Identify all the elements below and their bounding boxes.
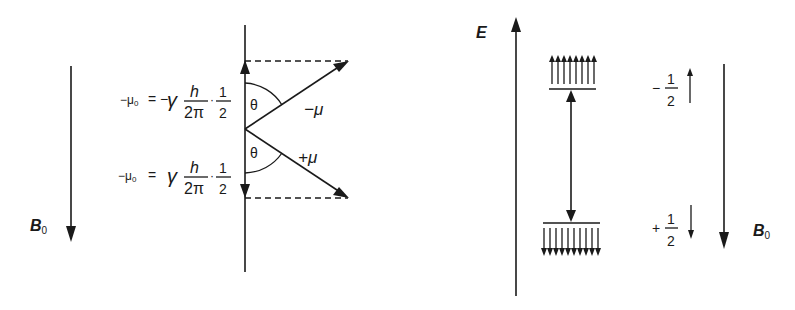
svg-text:1: 1 — [667, 211, 675, 227]
svg-text:1: 1 — [667, 71, 675, 87]
equation-lower: −μ0 = γ h 2π · 1 2 — [118, 159, 231, 197]
theta-label-upper: θ — [250, 97, 258, 113]
b0-field-arrow-left — [66, 66, 76, 242]
svg-text:γ: γ — [167, 89, 178, 111]
spin-down-indicator-arrow — [688, 205, 694, 239]
svg-text:1: 1 — [219, 160, 227, 176]
spin-down-arrows — [541, 228, 601, 256]
energy-label: E — [476, 24, 488, 41]
spin-label-upper: − 1 2 — [652, 71, 678, 109]
svg-text:·: · — [210, 169, 214, 183]
svg-text:=: = — [148, 167, 156, 183]
right-panel: E — [476, 17, 771, 296]
svg-text:−μ0: −μ0 — [120, 93, 139, 108]
nmr-spin-diagram: B0 θ θ −μ +μ −μ0 = − γ — [0, 0, 795, 310]
z-component-up-arrowhead — [240, 60, 250, 74]
svg-text:−μ0: −μ0 — [118, 169, 137, 184]
b0-label-left: B0 — [30, 217, 48, 236]
plus-mu-label: +μ — [298, 148, 318, 167]
svg-text:2: 2 — [219, 105, 227, 121]
svg-text:γ: γ — [167, 165, 178, 187]
energy-axis — [511, 17, 521, 296]
spin-up-indicator-arrow — [687, 68, 693, 103]
svg-text:2: 2 — [667, 233, 675, 249]
b0-field-arrow-right — [719, 64, 729, 249]
svg-text:2π: 2π — [184, 104, 204, 121]
transition-double-arrow — [566, 90, 576, 222]
z-component-down-arrowhead — [240, 184, 250, 198]
equation-upper: −μ0 = − γ h 2π · 1 2 — [120, 83, 231, 121]
vector-minus-mu — [245, 61, 349, 129]
spin-label-lower: + 1 2 — [652, 211, 678, 249]
svg-text:2: 2 — [219, 181, 227, 197]
svg-text:−: − — [652, 80, 660, 96]
b0-label-right: B0 — [753, 222, 771, 241]
vector-plus-mu — [245, 129, 349, 198]
spin-up-arrows — [549, 55, 597, 84]
svg-text:=: = — [148, 91, 156, 107]
svg-text:2: 2 — [667, 93, 675, 109]
svg-text:2π: 2π — [184, 180, 204, 197]
svg-text:h: h — [190, 83, 199, 100]
theta-label-lower: θ — [250, 145, 258, 161]
svg-text:+: + — [652, 220, 660, 236]
svg-text:1: 1 — [219, 84, 227, 100]
svg-text:h: h — [190, 159, 199, 176]
left-panel: B0 θ θ −μ +μ −μ0 = − γ — [30, 25, 349, 272]
svg-text:·: · — [210, 93, 214, 107]
minus-mu-label: −μ — [304, 100, 324, 119]
